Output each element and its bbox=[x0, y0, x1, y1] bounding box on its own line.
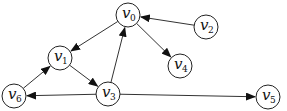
edge-v0-to-v1 bbox=[71, 21, 118, 51]
node-v1: v1 bbox=[48, 46, 72, 70]
node-v2: v2 bbox=[194, 15, 218, 39]
node-subscript: 1 bbox=[62, 56, 68, 66]
edge-v3-to-v5 bbox=[120, 94, 255, 97]
node-v3: v3 bbox=[96, 82, 120, 106]
node-subscript: 0 bbox=[130, 13, 136, 23]
edge-v6-to-v1 bbox=[23, 66, 50, 88]
node-subscript: 4 bbox=[182, 64, 188, 74]
node-subscript: 5 bbox=[270, 95, 276, 105]
edge-v3-to-v0 bbox=[111, 28, 125, 83]
node-subscript: 2 bbox=[208, 25, 214, 35]
edge-v1-to-v3 bbox=[70, 65, 98, 86]
directed-graph: v0v1v2v3v4v5v6 bbox=[0, 0, 287, 111]
node-subscript: 3 bbox=[110, 92, 116, 102]
edge-v3-to-v6 bbox=[27, 94, 96, 95]
nodes-layer: v0v1v2v3v4v5v6 bbox=[2, 3, 280, 109]
node-v4: v4 bbox=[168, 54, 192, 78]
node-v6: v6 bbox=[2, 84, 26, 108]
edge-v2-to-v0 bbox=[141, 17, 194, 25]
node-v5: v5 bbox=[256, 85, 280, 109]
node-v0: v0 bbox=[116, 3, 140, 27]
edge-v0-to-v4 bbox=[137, 23, 171, 56]
node-subscript: 6 bbox=[16, 94, 22, 104]
